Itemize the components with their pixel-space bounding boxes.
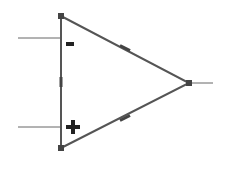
minus-sign-icon xyxy=(66,42,74,46)
plus-sign-icon xyxy=(66,120,80,134)
op-amp-triangle[interactable] xyxy=(61,16,189,148)
top-left-vertex-handle[interactable] xyxy=(58,13,64,19)
bottom-left-vertex-handle[interactable] xyxy=(58,145,64,151)
op-amp-diagram xyxy=(0,0,232,172)
output-vertex-handle[interactable] xyxy=(186,80,192,86)
